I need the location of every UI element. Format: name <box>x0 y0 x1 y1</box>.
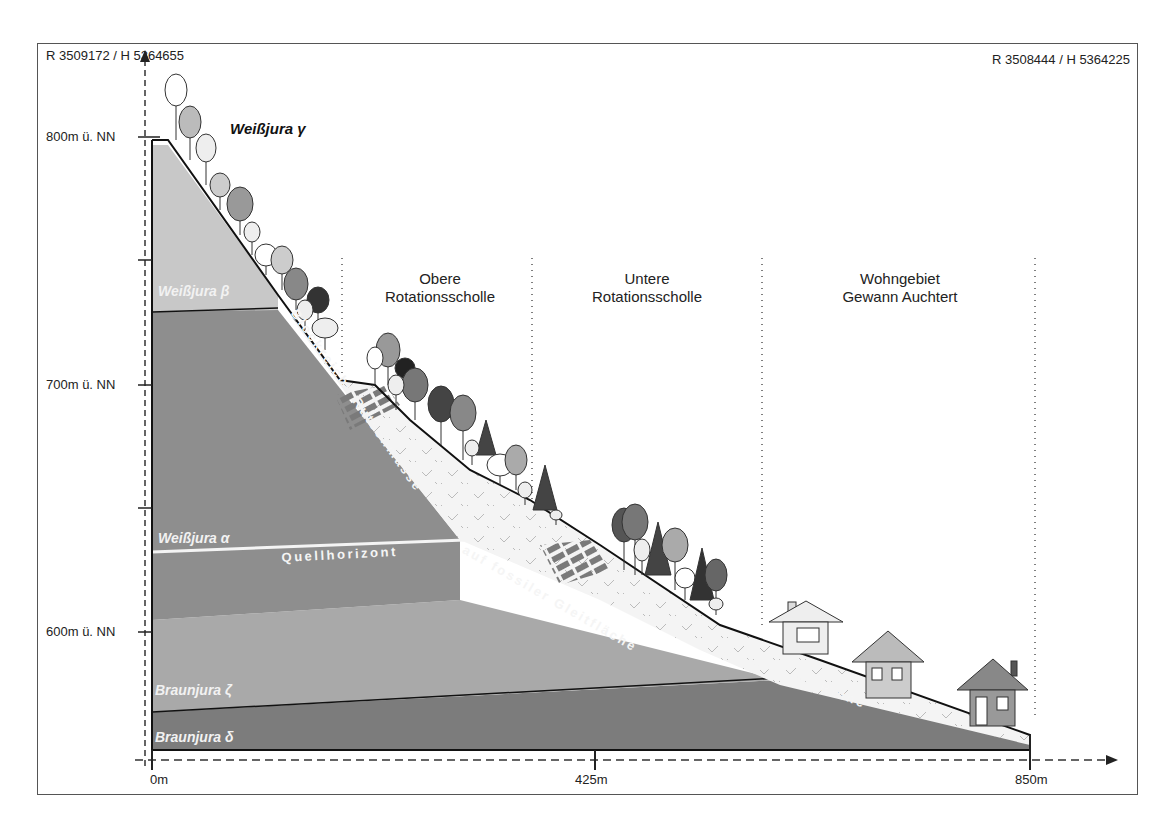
layer-label-weissjura-beta: Weißjura β <box>158 283 229 299</box>
coordinate-left: R 3509172 / H 5364655 <box>46 48 184 63</box>
y-tick-label-800: 800m ü. NN <box>46 129 115 144</box>
layer-label-weissjura-gamma: Weißjura γ <box>230 120 306 137</box>
layer-label-braunjura-zeta: Braunjura ζ <box>155 682 232 698</box>
coordinate-right: R 3508444 / H 5364225 <box>992 52 1130 67</box>
zone-label-obere: Obere Rotationsscholle <box>355 270 525 306</box>
x-tick-label-850: 850m <box>1015 772 1048 787</box>
x-axis-arrow <box>1106 755 1118 765</box>
y-tick-label-700: 700m ü. NN <box>46 377 115 392</box>
layer-label-braunjura-delta: Braunjura δ <box>155 729 234 745</box>
y-tick-label-600: 600m ü. NN <box>46 624 115 639</box>
geological-cross-section <box>0 0 1168 838</box>
x-tick-label-425: 425m <box>575 772 608 787</box>
zone-label-wohngebiet: Wohngebiet Gewann Auchtert <box>815 270 985 306</box>
x-tick-label-0: 0m <box>150 772 168 787</box>
zone-label-untere: Untere Rotationsscholle <box>562 270 732 306</box>
layer-label-weissjura-alpha: Weißjura α <box>158 530 229 546</box>
